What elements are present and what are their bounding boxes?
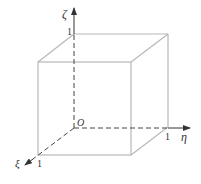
zeta-tick-label: 1: [67, 26, 72, 37]
cube-edges: [38, 34, 168, 155]
cube-bottom-right-depth-edge: [131, 127, 168, 155]
zeta-axis-label: ζ: [62, 7, 68, 21]
unit-cube-diagram: ζ 1 O 1 η ξ 1: [0, 0, 201, 184]
cube-top-right-depth-edge: [131, 34, 168, 62]
cube-top-left-depth-edge: [38, 34, 74, 62]
xi-axis-label: ξ: [15, 157, 20, 170]
xi-tick-label: 1: [37, 158, 42, 169]
cube-front-face: [38, 62, 131, 155]
origin-label: O: [77, 117, 84, 128]
hidden-axes: [33, 34, 168, 159]
eta-tick-label: 1: [165, 131, 170, 142]
eta-axis-label: η: [181, 130, 187, 144]
xi-axis-hidden: [33, 128, 74, 159]
xi-axis: [25, 159, 33, 165]
